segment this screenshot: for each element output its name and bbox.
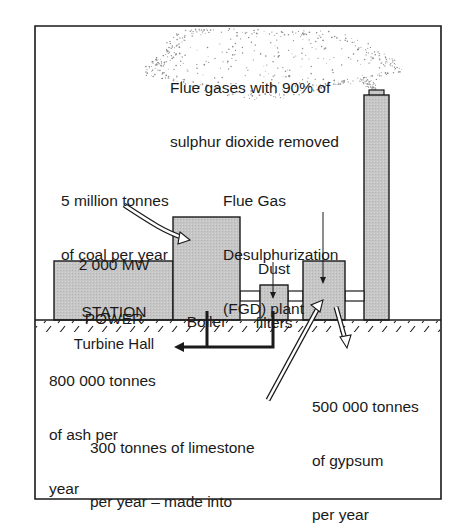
flue-gas-label-line1: Flue gases with 90% of [170, 79, 339, 97]
dust-filters-line2: filters [246, 314, 302, 332]
cloud-dot [164, 63, 165, 64]
cloud-dot [385, 57, 387, 59]
cloud-dot [168, 69, 169, 70]
cloud-dot [319, 35, 320, 36]
cloud-dot [295, 32, 296, 33]
cloud-dot [182, 37, 183, 38]
cloud-dot [264, 31, 265, 32]
coal-label-line1: 5 million tonnes [61, 192, 169, 210]
cloud-dot [360, 78, 361, 79]
cloud-dot [372, 57, 373, 58]
cloud-dot [372, 84, 373, 85]
cloud-dot [191, 33, 192, 34]
cloud-dot [248, 37, 250, 39]
cloud-dot [328, 31, 330, 33]
cloud-dot [367, 86, 368, 87]
cloud-dot [256, 33, 258, 35]
cloud-dot [210, 29, 212, 31]
cloud-dot [146, 75, 147, 76]
cloud-dot [370, 87, 371, 88]
cloud-dot [371, 56, 372, 57]
cloud-dot [230, 38, 231, 39]
cloud-dot [179, 38, 180, 39]
cloud-dot [362, 75, 363, 76]
cloud-dot [191, 30, 192, 31]
cloud-dot [355, 45, 356, 46]
cloud-dot [389, 58, 390, 59]
cloud-dot [162, 55, 164, 57]
cloud-dot [394, 66, 395, 67]
cloud-dot [190, 31, 192, 33]
cloud-dot [149, 66, 151, 68]
cloud-dot [350, 83, 351, 84]
cloud-dot [358, 47, 359, 48]
cloud-dot [203, 29, 205, 31]
cloud-dot [386, 74, 387, 75]
cloud-dot [379, 73, 380, 74]
cloud-dot [195, 30, 196, 31]
cloud-dot [371, 59, 372, 60]
cloud-dot [161, 62, 162, 63]
cloud-dot [151, 66, 152, 67]
cloud-dot [205, 33, 206, 34]
cloud-dot [379, 53, 380, 54]
cloud-dot [399, 68, 400, 69]
cloud-dot [340, 40, 341, 41]
cloud-dot [202, 31, 203, 32]
cloud-dot [240, 38, 241, 39]
cloud-dot [347, 79, 348, 80]
cloud-dot [367, 80, 368, 81]
cloud-dot [178, 34, 179, 35]
cloud-dot [386, 59, 387, 60]
cloud-dot [364, 59, 366, 61]
cloud-dot [381, 72, 382, 73]
cloud-dot [376, 79, 377, 80]
cloud-dot [302, 39, 303, 40]
cloud-dot [166, 61, 167, 62]
cloud-dot [165, 54, 166, 55]
cloud-dot [159, 70, 161, 72]
cloud-dot [394, 67, 395, 68]
cloud-dot [384, 65, 385, 66]
cloud-dot [354, 42, 355, 43]
cloud-dot [146, 69, 147, 70]
cloud-dot [145, 71, 146, 72]
cloud-dot [154, 74, 156, 76]
cloud-dot [348, 57, 349, 58]
cloud-dot [276, 39, 277, 40]
cloud-dot [309, 31, 311, 33]
cloud-dot [373, 82, 374, 83]
cloud-dot [163, 72, 165, 74]
cloud-dot [320, 37, 321, 38]
cloud-dot [206, 28, 207, 29]
cloud-dot [301, 34, 302, 35]
cloud-dot [360, 47, 361, 48]
cloud-dot [192, 31, 193, 32]
cloud-dot [396, 67, 397, 68]
cloud-dot [256, 36, 257, 37]
dust-filters-label: Dust filters [246, 224, 302, 368]
cloud-dot [281, 31, 283, 33]
cloud-dot [269, 33, 270, 34]
cloud-dot [365, 49, 366, 50]
cloud-dot [246, 32, 247, 33]
cloud-dot [334, 36, 336, 38]
cloud-dot [331, 37, 333, 39]
cloud-dot [158, 59, 159, 60]
cloud-dot [367, 83, 368, 84]
cloud-dot [341, 64, 343, 66]
cloud-dot [162, 73, 163, 74]
cloud-dot [351, 38, 352, 39]
cloud-dot [207, 30, 208, 31]
cloud-dot [201, 29, 202, 30]
cloud-dot [374, 51, 375, 52]
cloud-dot [168, 53, 169, 54]
cloud-dot [353, 53, 354, 54]
cloud-dot [357, 40, 358, 41]
cloud-dot [158, 63, 159, 64]
cloud-dot [191, 35, 192, 36]
cloud-dot [293, 40, 294, 41]
cloud-dot [271, 31, 272, 32]
cloud-dot [221, 32, 222, 33]
cloud-dot [394, 59, 395, 60]
